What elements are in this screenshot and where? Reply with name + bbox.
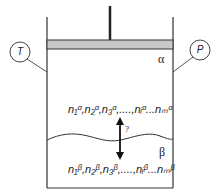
phase-beta-label: β xyxy=(159,146,165,158)
pressure-label: P xyxy=(190,40,210,60)
phase-interface xyxy=(47,134,173,141)
temperature-label: T xyxy=(10,42,30,62)
arrow-up-icon xyxy=(116,117,124,125)
temperature-gauge-lead xyxy=(27,59,47,72)
arrow-down-icon xyxy=(116,152,124,160)
lower-phase-composition: n₁ᵝ,n₂ᵝ,n₃ᵝ,....,nᵢᵝ...nₘᵝ xyxy=(68,164,175,175)
piston xyxy=(47,40,173,49)
transfer-question-label: ? xyxy=(125,124,129,134)
phase-alpha-label: α xyxy=(158,53,164,65)
upper-phase-composition: n₁ᵅ,n₂ᵅ,n₃ᵅ,....,nᵢᵅ...nₘᵅ xyxy=(68,104,172,115)
